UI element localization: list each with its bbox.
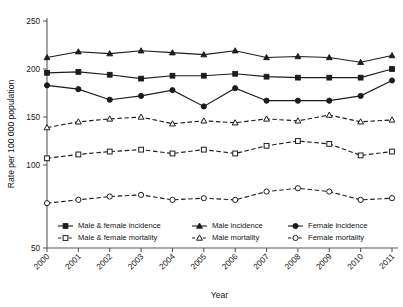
data-point-marker xyxy=(201,196,206,201)
data-point-marker xyxy=(201,73,206,78)
x-tick-label: 2011 xyxy=(378,252,397,271)
data-point-marker xyxy=(63,236,68,241)
data-point-marker xyxy=(327,141,332,146)
data-point-marker xyxy=(139,76,144,81)
x-tick-label: 2000 xyxy=(32,252,52,272)
series-layer xyxy=(44,48,395,206)
data-point-marker xyxy=(389,196,394,201)
data-point-marker xyxy=(358,75,363,80)
line-chart: 5010015020025020002001200220032004200520… xyxy=(0,0,403,307)
data-point-marker xyxy=(201,147,206,152)
legend-label: Male & female incidence xyxy=(78,221,161,230)
y-tick-label: 150 xyxy=(26,113,40,122)
data-point-marker xyxy=(170,88,175,93)
y-tick-label: 50 xyxy=(31,244,41,253)
data-point-marker xyxy=(44,83,49,88)
data-point-marker xyxy=(107,149,112,154)
y-tick-label: 200 xyxy=(26,65,40,74)
legend-label: Female mortality xyxy=(308,233,364,242)
data-point-marker xyxy=(76,87,81,92)
data-point-marker xyxy=(139,147,144,152)
data-point-marker xyxy=(293,235,298,240)
x-tick-label: 2002 xyxy=(95,252,115,272)
data-point-marker xyxy=(233,86,238,91)
series-line xyxy=(47,51,392,63)
series-line xyxy=(47,81,392,107)
legend-label: Female incidence xyxy=(308,221,368,230)
x-tick-label: 2007 xyxy=(252,252,272,272)
series-line xyxy=(47,115,392,127)
y-tick-label: 100 xyxy=(26,161,40,170)
data-point-marker xyxy=(44,201,49,206)
data-point-marker xyxy=(327,75,332,80)
series-6 xyxy=(44,186,394,206)
data-point-marker xyxy=(326,112,332,117)
y-axis-title: Rate per 100 000 population xyxy=(6,80,16,189)
chart-legend: Male & female incidenceMale incidenceFem… xyxy=(58,221,368,242)
data-point-marker xyxy=(170,197,175,202)
series-1 xyxy=(45,67,395,81)
data-point-marker xyxy=(293,223,298,228)
series-4 xyxy=(45,139,395,161)
data-point-marker xyxy=(389,78,394,83)
legend-item-3[interactable]: Female incidence xyxy=(288,221,368,230)
legend-item-2[interactable]: Male incidence xyxy=(192,221,263,230)
data-point-marker xyxy=(107,97,112,102)
data-point-marker xyxy=(264,189,269,194)
data-point-marker xyxy=(76,69,81,74)
x-tick-label: 2004 xyxy=(158,252,178,272)
data-point-marker xyxy=(233,197,238,202)
data-point-marker xyxy=(390,149,395,154)
data-point-marker xyxy=(107,72,112,77)
legend-item-5[interactable]: Male mortality xyxy=(192,233,259,242)
chart-container: 5010015020025020002001200220032004200520… xyxy=(0,0,403,307)
data-point-marker xyxy=(76,152,81,157)
legend-label: Male & female mortality xyxy=(78,233,158,242)
data-point-marker xyxy=(295,98,300,103)
legend-item-4[interactable]: Male & female mortality xyxy=(58,233,158,242)
legend-item-6[interactable]: Female mortality xyxy=(288,233,364,242)
x-tick-label: 2005 xyxy=(189,252,209,272)
series-2 xyxy=(44,48,395,65)
data-point-marker xyxy=(75,119,81,124)
legend-label: Male incidence xyxy=(212,221,263,230)
legend-label: Male mortality xyxy=(212,233,259,242)
data-point-marker xyxy=(264,98,269,103)
x-axis-title: Year xyxy=(211,290,229,300)
data-point-marker xyxy=(358,93,363,98)
data-point-marker xyxy=(327,189,332,194)
series-3 xyxy=(44,78,394,109)
data-point-marker xyxy=(233,151,238,156)
data-point-marker xyxy=(107,194,112,199)
legend-item-1[interactable]: Male & female incidence xyxy=(58,221,161,230)
series-5 xyxy=(44,112,395,130)
series-line xyxy=(47,188,392,203)
data-point-marker xyxy=(170,73,175,78)
x-tick-label: 2010 xyxy=(346,252,366,272)
data-point-marker xyxy=(138,93,143,98)
data-point-marker xyxy=(264,74,269,79)
data-point-marker xyxy=(201,104,206,109)
x-tick-label: 2008 xyxy=(283,252,303,272)
data-point-marker xyxy=(63,224,68,229)
data-point-marker xyxy=(138,192,143,197)
y-tick-label: 250 xyxy=(26,17,40,26)
data-point-marker xyxy=(232,48,238,53)
data-point-marker xyxy=(233,71,238,76)
data-point-marker xyxy=(389,53,395,58)
data-point-marker xyxy=(45,156,50,161)
data-point-marker xyxy=(358,197,363,202)
x-tick-label: 2003 xyxy=(126,252,146,272)
data-point-marker xyxy=(327,98,332,103)
data-point-marker xyxy=(45,70,50,75)
data-point-marker xyxy=(76,197,81,202)
data-point-marker xyxy=(358,153,363,158)
x-tick-label: 2006 xyxy=(220,252,240,272)
x-tick-label: 2001 xyxy=(64,252,84,272)
series-line xyxy=(47,69,392,79)
data-point-marker xyxy=(170,151,175,156)
data-point-marker xyxy=(296,75,301,80)
data-point-marker xyxy=(390,67,395,72)
data-point-marker xyxy=(264,143,269,148)
series-line xyxy=(47,141,392,158)
